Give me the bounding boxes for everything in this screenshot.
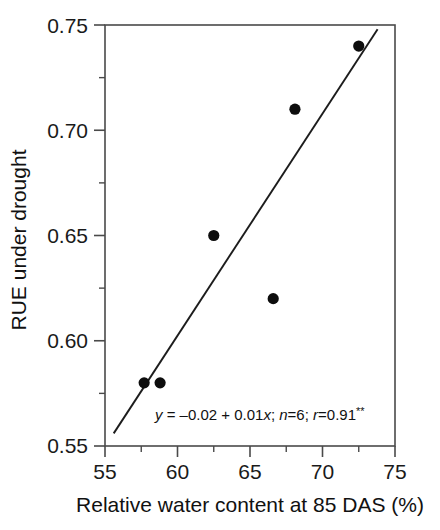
annot-separator: ;: [271, 406, 279, 423]
data-point: [155, 377, 166, 388]
x-tick-label-0: 55: [93, 460, 116, 483]
y-tick-label-2: 0.65: [47, 224, 88, 247]
annot-significance: **: [356, 405, 365, 417]
annot-n-symbol: n: [279, 406, 287, 423]
x-axis-major-ticks: [105, 446, 395, 457]
annot-n-value: =6;: [288, 406, 313, 423]
data-point: [289, 104, 300, 115]
x-axis-title: Relative water content at 85 DAS (%): [76, 493, 424, 516]
regression-annotation: y = –0.02 + 0.01x; n=6; r=0.91**: [154, 405, 365, 423]
data-point: [208, 230, 219, 241]
data-point: [268, 293, 279, 304]
x-tick-label-2: 65: [238, 460, 261, 483]
data-points-group: [139, 40, 365, 388]
y-tick-label-4: 0.75: [47, 14, 88, 37]
annot-equation-body: = –0.02 + 0.01: [163, 406, 264, 423]
plot-svg: 0.55 0.60 0.65 0.70 0.75 55 60 65 70 75 …: [0, 0, 440, 530]
y-axis-title: RUE under drought: [7, 149, 30, 330]
y-axis-major-ticks: [94, 25, 105, 446]
x-tick-label-1: 60: [166, 460, 189, 483]
data-point: [353, 40, 364, 51]
x-tick-label-3: 70: [311, 460, 334, 483]
scatter-plot-figure: 0.55 0.60 0.65 0.70 0.75 55 60 65 70 75 …: [0, 0, 440, 530]
y-tick-label-1: 0.60: [47, 329, 88, 352]
data-point: [139, 377, 150, 388]
regression-line: [114, 29, 378, 433]
y-tick-label-0: 0.55: [47, 434, 88, 457]
x-tick-label-4: 75: [383, 460, 406, 483]
y-tick-label-3: 0.70: [47, 119, 88, 142]
annot-r-value: =0.91: [318, 406, 356, 423]
